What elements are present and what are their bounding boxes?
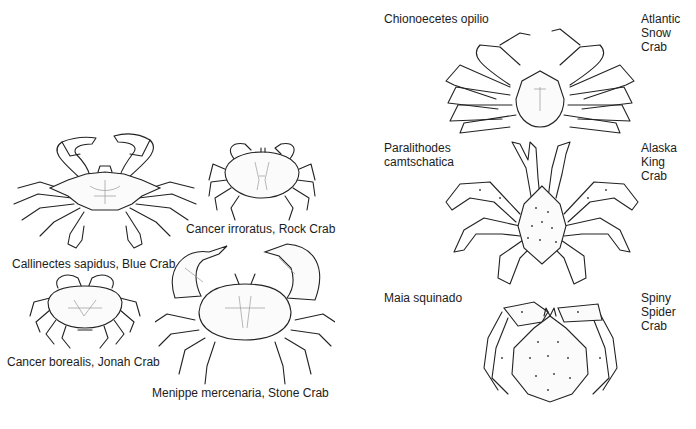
king-crab-common-name: Alaska King Crab (641, 141, 677, 183)
snow-crab-scientific-name: Chionoecetes opilio (384, 12, 489, 26)
jonah-crab-label: Cancer borealis, Jonah Crab (7, 355, 160, 369)
spider-crab-scientific-name: Maia squinado (384, 291, 462, 305)
rock-crab-illustration (205, 140, 320, 222)
spider-crab-illustration (478, 298, 623, 406)
jonah-crab-illustration (28, 272, 143, 352)
stone-crab-illustration (155, 238, 335, 388)
stone-crab-label: Menippe mercenaria, Stone Crab (152, 386, 329, 400)
snow-crab-common-name: Atlantic Snow Crab (641, 12, 680, 54)
rock-crab-label: Cancer irroratus, Rock Crab (186, 222, 335, 236)
snow-crab-illustration (440, 25, 640, 135)
crab-species-plate: Callinectes sapidus, Blue Crab Cancer ir… (0, 0, 696, 429)
blue-crab-illustration (10, 130, 200, 250)
blue-crab-label: Callinectes sapidus, Blue Crab (12, 257, 175, 271)
spider-crab-common-name: Spiny Spider Crab (641, 291, 676, 333)
king-crab-illustration (440, 138, 645, 288)
